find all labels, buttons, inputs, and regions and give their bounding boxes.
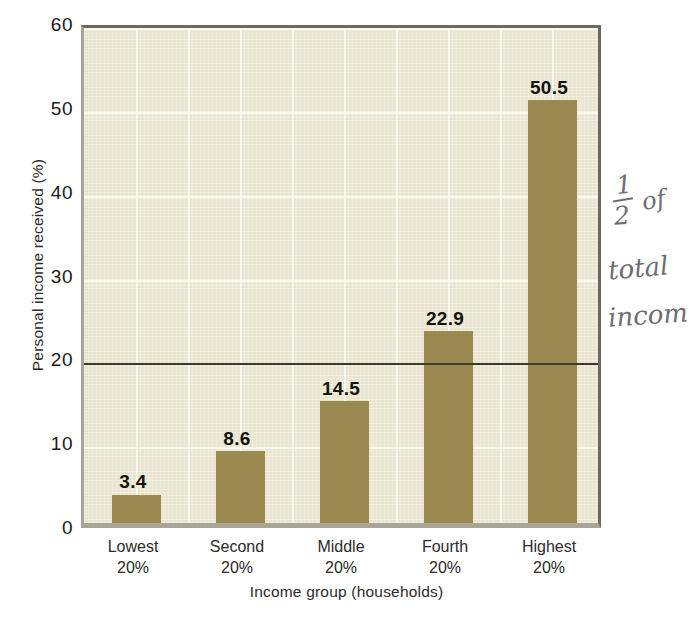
bar [112, 495, 161, 524]
handwritten-total: total [607, 250, 670, 285]
handwritten-income: incom [607, 297, 689, 333]
bar [528, 100, 577, 523]
handwritten-fraction-bar [613, 197, 633, 202]
x-axis-tick-label-line: Middle [286, 536, 396, 557]
x-axis-tick-label-line: Highest [494, 536, 604, 557]
x-axis-tick-label-line: 20% [286, 557, 396, 578]
bar [424, 331, 473, 523]
bar-chart: Personal income received (%) 01020304050… [0, 0, 693, 619]
y-axis-tick-label: 20 [33, 349, 73, 371]
handwritten-fraction: 1 2 [612, 172, 632, 228]
x-axis-tick-label: Highest20% [494, 536, 604, 578]
handwritten-denominator: 2 [613, 202, 635, 228]
x-axis-tick-label-line: 20% [494, 557, 604, 578]
plot-area [81, 25, 601, 528]
handwritten-of: of [640, 184, 668, 216]
reference-line [84, 363, 598, 365]
handwritten-numerator: 1 [615, 171, 638, 198]
gridline-horizontal [84, 28, 598, 30]
bar-value-label: 14.5 [301, 378, 381, 400]
x-axis-tick-label-line: 20% [78, 557, 188, 578]
gridline-horizontal [84, 280, 598, 282]
y-axis-tick-label: 40 [33, 182, 73, 204]
x-axis-tick-label-line: Second [182, 536, 292, 557]
bar [216, 451, 265, 523]
x-axis-tick-label: Lowest20% [78, 536, 188, 578]
x-axis-tick-label-line: Lowest [78, 536, 188, 557]
x-axis-title: Income group (households) [0, 583, 693, 601]
y-axis-tick-label: 10 [33, 433, 73, 455]
bar-value-label: 22.9 [405, 308, 485, 330]
y-axis-tick-label: 0 [33, 517, 73, 539]
gridline-horizontal [84, 196, 598, 198]
y-axis-tick-label: 50 [33, 98, 73, 120]
bar-value-label: 3.4 [93, 471, 173, 493]
bar [320, 401, 369, 523]
y-axis-tick-label: 30 [33, 266, 73, 288]
x-axis-tick-label: Second20% [182, 536, 292, 578]
x-axis-tick-label-line: Fourth [390, 536, 500, 557]
x-axis-tick-label: Middle20% [286, 536, 396, 578]
x-axis-tick-label-line: 20% [182, 557, 292, 578]
x-axis-tick-label: Fourth20% [390, 536, 500, 578]
bar-value-label: 50.5 [509, 77, 589, 99]
bar-value-label: 8.6 [197, 428, 277, 450]
x-axis-tick-label-line: 20% [390, 557, 500, 578]
gridline-horizontal [84, 112, 598, 114]
y-axis-tick-label: 60 [33, 14, 73, 36]
